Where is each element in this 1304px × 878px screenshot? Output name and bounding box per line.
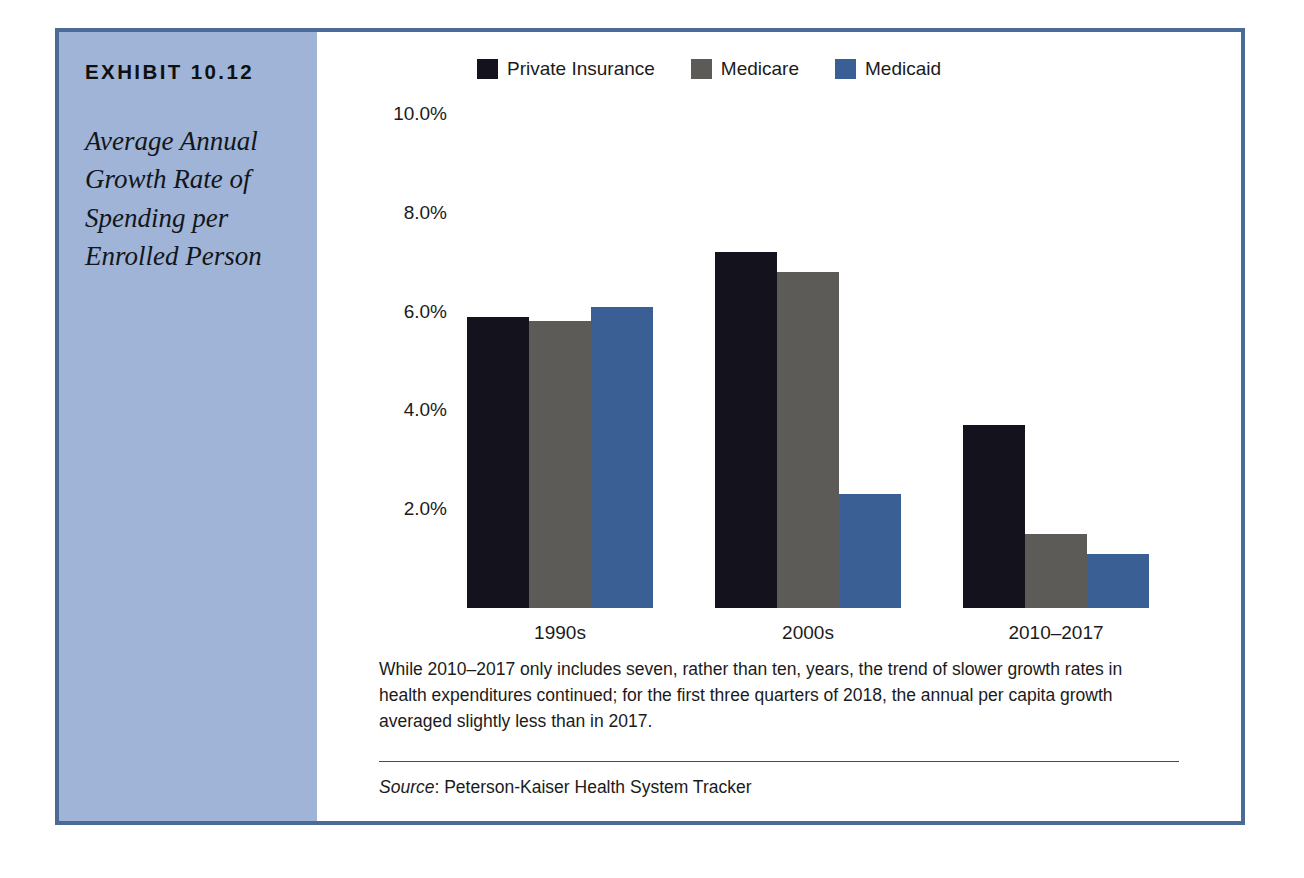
bar: [777, 272, 839, 608]
exhibit-number: EXHIBIT 10.12: [85, 60, 291, 84]
bar: [715, 252, 777, 608]
exhibit-sidebar: EXHIBIT 10.12 Average Annual Growth Rate…: [59, 32, 317, 821]
source-divider: [379, 761, 1179, 762]
bar: [467, 317, 529, 608]
x-axis-tick-label: 2010–2017: [1008, 622, 1103, 644]
chart-note: While 2010–2017 only includes seven, rat…: [379, 657, 1169, 735]
source-line: Source: Peterson-Kaiser Health System Tr…: [379, 777, 752, 798]
exhibit-title: Average Annual Growth Rate of Spending p…: [85, 122, 291, 275]
bar: [963, 425, 1025, 608]
bar: [591, 307, 653, 608]
bar: [839, 494, 901, 608]
x-axis-tick-label: 1990s: [534, 622, 586, 644]
bar: [1025, 534, 1087, 608]
bar-groups: [317, 32, 1241, 608]
chart-panel: Private InsuranceMedicareMedicaid 2.0%4.…: [317, 32, 1241, 821]
exhibit-frame: EXHIBIT 10.12 Average Annual Growth Rate…: [55, 28, 1245, 825]
source-text: : Peterson-Kaiser Health System Tracker: [434, 777, 751, 797]
source-label: Source: [379, 777, 434, 797]
bar: [529, 321, 591, 608]
bar: [1087, 554, 1149, 608]
x-axis-tick-label: 2000s: [782, 622, 834, 644]
